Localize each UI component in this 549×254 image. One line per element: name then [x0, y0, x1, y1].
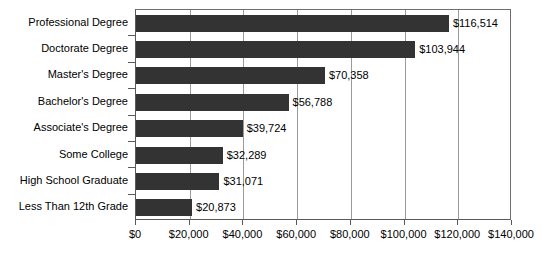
x-axis-tick-label: $0	[129, 228, 141, 240]
y-axis-tick	[128, 141, 135, 142]
x-axis-tick	[189, 220, 190, 225]
bar-value-label: $32,289	[227, 149, 267, 161]
bar	[136, 147, 223, 164]
x-axis-tick	[404, 220, 405, 225]
y-axis-tick	[128, 62, 135, 63]
category-label: Less Than 12th Grade	[0, 200, 128, 212]
bar	[136, 67, 325, 84]
bar-value-label: $39,724	[247, 122, 287, 134]
x-axis-tick	[350, 220, 351, 225]
category-label: Master's Degree	[0, 68, 128, 80]
bar	[136, 41, 415, 58]
x-axis-tick-label: $140,000	[488, 228, 534, 240]
bar-value-label: $56,788	[293, 96, 333, 108]
bar-value-label: $103,944	[419, 43, 465, 55]
x-axis-tick	[511, 220, 512, 225]
bar	[136, 15, 449, 32]
category-label: Some College	[0, 148, 128, 160]
x-axis-tick	[457, 220, 458, 225]
x-axis-tick-label: $80,000	[330, 228, 370, 240]
bar-chart: Professional DegreeDoctorate DegreeMaste…	[0, 0, 549, 254]
y-axis-tick	[128, 35, 135, 36]
x-axis-tick-label: $120,000	[434, 228, 480, 240]
category-label: Doctorate Degree	[0, 42, 128, 54]
x-axis-tick	[296, 220, 297, 225]
bar	[136, 94, 289, 111]
x-axis-tick-label: $100,000	[381, 228, 427, 240]
x-axis-tick-label: $40,000	[223, 228, 263, 240]
x-axis-tick-label: $20,000	[169, 228, 209, 240]
bar-value-label: $116,514	[453, 17, 498, 29]
bar-value-label: $20,873	[196, 201, 236, 213]
category-label: High School Graduate	[0, 174, 128, 186]
x-axis-tick	[242, 220, 243, 225]
category-label: Professional Degree	[0, 16, 128, 28]
bar	[136, 173, 219, 190]
category-axis: Professional DegreeDoctorate DegreeMaste…	[0, 9, 132, 220]
y-axis-tick	[128, 167, 135, 168]
bar	[136, 120, 243, 137]
category-label: Associate's Degree	[0, 121, 128, 133]
plot-area: $116,514$103,944$70,358$56,788$39,724$32…	[135, 9, 511, 220]
gridline	[458, 10, 459, 219]
y-axis-tick	[128, 194, 135, 195]
bar-value-label: $31,071	[223, 175, 263, 187]
y-axis-tick	[128, 115, 135, 116]
bar-value-label: $70,358	[329, 69, 369, 81]
x-axis-tick-label: $60,000	[276, 228, 316, 240]
x-axis-tick	[135, 220, 136, 225]
category-label: Bachelor's Degree	[0, 95, 128, 107]
y-axis-tick	[128, 88, 135, 89]
bar	[136, 199, 192, 216]
